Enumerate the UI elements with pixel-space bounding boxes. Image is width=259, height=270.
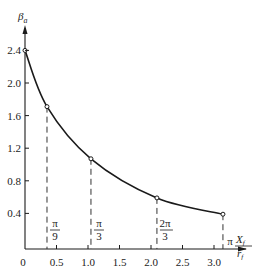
data-point: [155, 196, 159, 200]
annotation-numerator: π: [52, 217, 58, 229]
data-point: [221, 212, 225, 216]
x-annotations: π9π32π3π: [50, 217, 233, 247]
data-point: [89, 157, 93, 161]
x-tick-label: 1.5: [113, 256, 127, 268]
annotation-denominator: 3: [162, 230, 168, 242]
x-tick-label: 2.5: [176, 256, 190, 268]
data-points: [23, 48, 225, 216]
annotation-denominator: 9: [52, 230, 58, 242]
y-tick-label: 1.2: [7, 142, 21, 154]
svg-text:Xf: Xf: [235, 233, 246, 247]
x-tick-label: 0.5: [50, 256, 64, 268]
annotation-label: π: [227, 235, 233, 247]
dashed-drop-lines: [47, 107, 223, 249]
y-tick-label: 1.6: [7, 110, 21, 122]
data-point: [45, 105, 49, 109]
chart: 0.40.81.21.62.02.400.51.01.52.02.53.0 π9…: [0, 0, 259, 270]
annotation-denominator: 3: [96, 230, 102, 242]
y-tick-label: 0.4: [7, 207, 21, 219]
annotation-numerator: 2π: [159, 217, 171, 229]
y-axis-label: βa: [17, 10, 27, 25]
y-tick-label: 2.0: [7, 77, 21, 89]
data-curve: [25, 50, 223, 214]
x-tick-label: 2.0: [144, 256, 158, 268]
x-axis-label: Xf rf: [235, 233, 252, 261]
axis-ticks: 0.40.81.21.62.02.400.51.01.52.02.53.0: [7, 44, 221, 268]
x-tick-label: 3.0: [207, 256, 221, 268]
annotation-numerator: π: [96, 217, 102, 229]
y-tick-label: 2.4: [7, 44, 21, 56]
x-tick-label: 1.0: [81, 256, 95, 268]
y-tick-label: 0.8: [7, 175, 21, 187]
x-tick-label: 0: [20, 256, 26, 268]
